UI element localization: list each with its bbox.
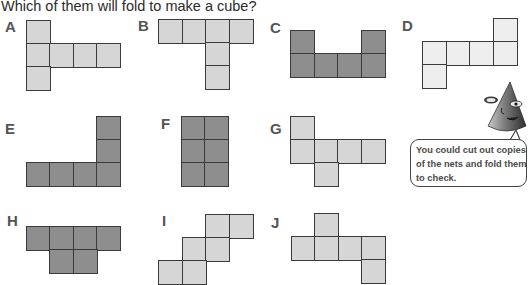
net-square xyxy=(338,236,363,261)
net-square xyxy=(205,19,230,44)
net-square xyxy=(96,139,121,164)
net-square xyxy=(205,214,230,239)
net-square xyxy=(49,162,74,187)
net-square xyxy=(182,237,207,262)
net-square xyxy=(446,41,471,66)
net-square xyxy=(73,249,98,274)
net-square xyxy=(96,116,121,141)
net-square xyxy=(314,53,339,78)
net-square xyxy=(182,19,207,44)
net-square xyxy=(290,116,315,141)
net-square xyxy=(205,237,230,262)
net-square xyxy=(337,53,362,78)
net-label-i: I xyxy=(162,212,166,229)
net-label-e: E xyxy=(5,120,15,137)
net-square xyxy=(205,42,230,67)
net-square xyxy=(26,226,51,251)
cone-character-icon xyxy=(480,80,528,140)
net-square xyxy=(73,162,98,187)
net-square xyxy=(96,43,121,68)
net-square xyxy=(314,213,339,238)
net-square xyxy=(290,139,315,164)
net-label-c: C xyxy=(270,19,281,36)
net-square xyxy=(49,249,74,274)
net-square xyxy=(49,43,74,68)
net-square xyxy=(361,236,386,261)
net-label-b: B xyxy=(138,17,149,34)
net-label-j: J xyxy=(271,214,279,231)
net-square xyxy=(361,139,386,164)
net-square xyxy=(229,19,254,44)
net-square xyxy=(361,259,386,284)
net-square xyxy=(493,18,518,43)
net-square xyxy=(314,139,339,164)
net-square xyxy=(290,53,315,78)
net-square xyxy=(493,41,518,66)
net-square xyxy=(361,53,386,78)
net-square xyxy=(49,226,74,251)
net-square xyxy=(469,41,494,66)
net-square xyxy=(204,162,229,187)
net-square xyxy=(337,139,362,164)
net-label-d: D xyxy=(402,17,413,34)
net-label-a: A xyxy=(5,18,16,35)
net-square xyxy=(205,65,230,90)
net-square xyxy=(290,30,315,55)
net-square xyxy=(73,43,98,68)
net-label-h: H xyxy=(7,212,18,229)
net-square xyxy=(73,226,98,251)
net-square xyxy=(182,260,207,285)
net-square xyxy=(181,162,206,187)
net-label-f: F xyxy=(161,115,170,132)
net-square xyxy=(314,236,339,261)
net-square xyxy=(158,19,183,44)
net-square xyxy=(158,260,183,285)
question-title: Which of them will fold to make a cube? xyxy=(1,0,256,14)
net-square xyxy=(181,116,206,141)
net-square xyxy=(291,236,316,261)
net-square xyxy=(361,30,386,55)
net-square xyxy=(96,226,121,251)
net-square xyxy=(204,139,229,164)
hint-text: You could cut out copies of the nets and… xyxy=(416,143,528,185)
hint-line: to check. xyxy=(416,171,528,185)
net-square xyxy=(26,43,51,68)
net-square xyxy=(422,41,447,66)
hint-line: of the nets and fold them xyxy=(416,157,528,171)
net-square xyxy=(422,64,447,89)
hint-line: You could cut out copies xyxy=(416,143,528,157)
net-square xyxy=(26,20,51,45)
net-square xyxy=(229,214,254,239)
net-square xyxy=(181,139,206,164)
net-square xyxy=(26,162,51,187)
net-square xyxy=(314,162,339,187)
net-square xyxy=(26,66,51,91)
net-square xyxy=(204,116,229,141)
net-label-g: G xyxy=(270,120,282,137)
net-square xyxy=(96,162,121,187)
